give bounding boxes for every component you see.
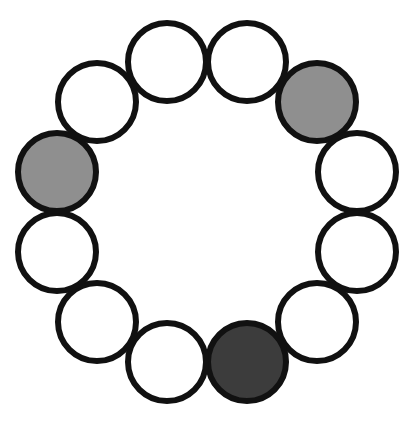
circle-node-8 <box>128 323 206 401</box>
circle-node-7 <box>208 323 286 401</box>
ring-of-circles-diagram <box>0 0 414 421</box>
circle-node-4 <box>318 133 396 211</box>
circle-node-5 <box>318 213 396 291</box>
circle-node-10 <box>18 213 96 291</box>
circle-node-6 <box>278 283 356 361</box>
circle-node-12 <box>58 63 136 141</box>
circle-node-11 <box>18 133 96 211</box>
circle-node-2 <box>208 23 286 101</box>
circle-node-1 <box>128 23 206 101</box>
circle-node-3 <box>278 63 356 141</box>
circle-node-9 <box>58 283 136 361</box>
figure-canvas <box>0 0 414 421</box>
